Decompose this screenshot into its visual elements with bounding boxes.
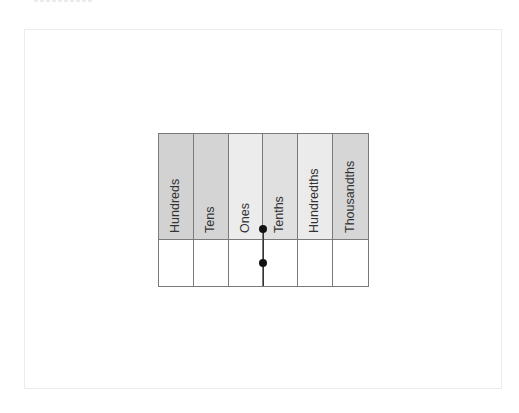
header-thousandths: Thousandths	[333, 134, 368, 240]
cropped-title-text	[34, 0, 94, 2]
header-hundredths: Hundredths	[298, 134, 333, 240]
decimal-point-dot-header	[259, 225, 267, 233]
header-ones: Ones	[229, 134, 264, 240]
decimal-point-dot-body	[259, 259, 267, 267]
header-label: Hundredths	[307, 168, 321, 233]
header-tens: Tens	[194, 134, 229, 240]
value-cell-tens	[194, 240, 229, 286]
header-hundreds: Hundreds	[159, 134, 194, 240]
header-label: Tens	[203, 207, 217, 233]
header-label: Thousandths	[343, 161, 357, 233]
decimal-divider-line	[263, 229, 264, 286]
value-cell-thousandths	[333, 240, 368, 286]
header-label: Tenths	[272, 196, 286, 233]
value-cell-hundreds	[159, 240, 194, 286]
header-label: Ones	[238, 203, 252, 233]
header-tenths: Tenths	[263, 134, 298, 240]
header-label: Hundreds	[168, 179, 182, 233]
value-cell-tenths	[263, 240, 298, 286]
value-cell-hundredths	[298, 240, 333, 286]
